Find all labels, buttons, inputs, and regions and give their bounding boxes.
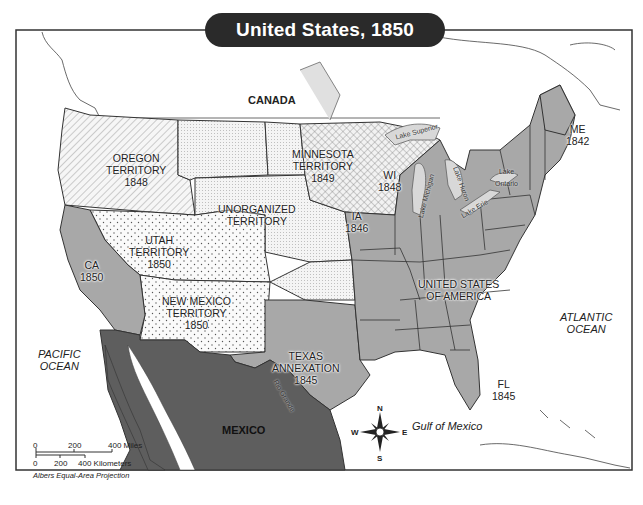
map-root: United States, 1850 CANADA MEXICO UNITED…: [0, 0, 643, 505]
label-mexico: MEXICO: [222, 424, 265, 436]
label-unorganized-territory: UNORGANIZED TERRITORY: [218, 203, 296, 227]
scale-km-400: 400 Kilometers: [78, 458, 131, 470]
compass-w: W: [351, 428, 359, 437]
compass-s: S: [377, 454, 382, 463]
label-atlantic-ocean: ATLANTIC OCEAN: [560, 311, 612, 335]
scale-miles-0: 0: [33, 440, 37, 452]
label-gulf-of-mexico: Gulf of Mexico: [412, 420, 482, 432]
label-new-mexico-territory: NEW MEXICO TERRITORY 1850: [162, 295, 231, 331]
map-title: United States, 1850: [205, 13, 445, 47]
map-canvas: [0, 0, 643, 505]
label-ca: CA 1850: [80, 259, 103, 283]
label-minnesota-territory: MINNESOTA TERRITORY 1849: [292, 148, 354, 184]
compass-n: N: [377, 404, 383, 413]
label-wi: WI 1848: [378, 169, 401, 193]
label-usa: UNITED STATES OF AMERICA: [418, 278, 499, 302]
label-pacific-ocean: PACIFIC OCEAN: [38, 348, 81, 372]
label-lake-ontario: Lake Ontario: [495, 166, 518, 190]
label-ia: IA 1846: [345, 210, 368, 234]
scale-miles-200: 200: [68, 440, 81, 452]
label-canada: CANADA: [248, 94, 296, 106]
compass-e: E: [402, 428, 407, 437]
label-fl: FL 1845: [492, 378, 515, 402]
scale-miles-400: 400 Miles: [108, 440, 142, 452]
scale-km-200: 200: [54, 458, 67, 470]
label-me: ME 1842: [566, 123, 589, 147]
scale-km-0: 0: [33, 458, 37, 470]
label-oregon-territory: OREGON TERRITORY 1848: [106, 152, 166, 188]
projection-note: Albers Equal-Area Projection: [33, 470, 129, 482]
label-utah-territory: UTAH TERRITORY 1850: [129, 234, 189, 270]
